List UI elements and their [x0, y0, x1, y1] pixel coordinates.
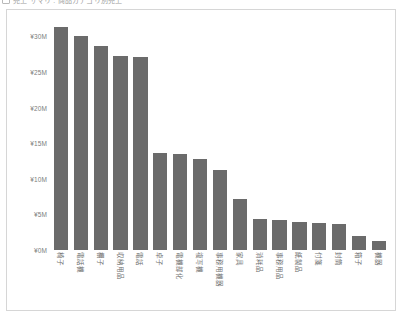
x-axis-tick-label: 機器	[374, 252, 384, 266]
x-label-slot: 収納用品	[111, 250, 131, 308]
x-axis-tick-label: 家具	[235, 252, 245, 266]
bar[interactable]	[193, 159, 207, 250]
x-label-slot: 封筒	[329, 250, 349, 308]
x-label-slot: 電話	[131, 250, 151, 308]
bar[interactable]	[352, 236, 366, 250]
x-label-slot: 箱子	[349, 250, 369, 308]
x-axis-tick-label: 紙製品	[294, 252, 304, 273]
x-axis-tick-label: 収納用品	[116, 252, 126, 280]
bar-slot	[91, 22, 111, 250]
x-label-slot: 棚子	[91, 250, 111, 308]
bar[interactable]	[173, 154, 187, 250]
bar[interactable]	[332, 224, 346, 250]
bar[interactable]	[94, 46, 108, 250]
x-label-slot: 家具	[230, 250, 250, 308]
x-label-slot: 事務用機器	[210, 250, 230, 308]
x-axis: 椅子電話機棚子収納用品電話卓子電機部化複写機事務用機器家具消耗品事務用品紙製品付…	[51, 250, 389, 308]
y-axis-tick: ¥0M	[34, 247, 47, 254]
x-axis-tick-label: 事務用品	[275, 252, 285, 280]
bar[interactable]	[312, 223, 326, 250]
bar-slot	[150, 22, 170, 250]
x-label-slot: 紙製品	[290, 250, 310, 308]
x-label-slot: 卓子	[150, 250, 170, 308]
x-label-slot: 電話機	[71, 250, 91, 308]
x-axis-tick-label: 箱子	[354, 252, 364, 266]
x-axis-tick-label: 消耗品	[255, 252, 265, 273]
bar-series	[51, 22, 389, 250]
x-axis-tick-label: 卓子	[155, 252, 165, 266]
bar-slot	[190, 22, 210, 250]
bar-slot	[250, 22, 270, 250]
bar-slot	[111, 22, 131, 250]
bar[interactable]	[213, 170, 227, 250]
y-axis-tick: ¥30M	[30, 33, 47, 40]
bar[interactable]	[133, 57, 147, 250]
x-axis-tick-label: 電機部化	[175, 252, 185, 280]
bar-slot	[71, 22, 91, 250]
y-axis-tick: ¥5M	[34, 211, 47, 218]
bar-slot	[170, 22, 190, 250]
y-axis-tick: ¥15M	[30, 140, 47, 147]
y-axis: ¥0M¥5M¥10M¥15M¥20M¥25M¥30M	[7, 22, 51, 250]
y-axis-tick: ¥10M	[30, 175, 47, 182]
bar[interactable]	[153, 153, 167, 250]
chart-card: ¥0M¥5M¥10M¥15M¥20M¥25M¥30M 椅子電話機棚子収納用品電話…	[6, 9, 396, 311]
x-axis-tick-label: 電話機	[76, 252, 86, 273]
x-axis-tick-label: 電話	[135, 252, 145, 266]
x-axis-tick-label: 付箋	[314, 252, 324, 266]
bar[interactable]	[233, 199, 247, 250]
bar-slot	[369, 22, 389, 250]
bar[interactable]	[253, 219, 267, 250]
panel-header-row: 売上 サマリ : 商品カテゴリ別売上	[2, 0, 122, 5]
bar-slot	[210, 22, 230, 250]
bar[interactable]	[113, 56, 127, 251]
bar[interactable]	[272, 220, 286, 250]
bar-slot	[230, 22, 250, 250]
y-axis-tick: ¥20M	[30, 104, 47, 111]
chart-screen: 売上 サマリ : 商品カテゴリ別売上 ¥0M¥5M¥10M¥15M¥20M¥25…	[0, 0, 403, 320]
bar-slot	[51, 22, 71, 250]
x-label-slot: 椅子	[51, 250, 71, 308]
x-label-slot: 消耗品	[250, 250, 270, 308]
x-axis-tick-label: 封筒	[334, 252, 344, 266]
x-label-slot: 複写機	[190, 250, 210, 308]
x-axis-tick-label: 椅子	[56, 252, 66, 266]
bar[interactable]	[54, 27, 68, 250]
bar-slot	[131, 22, 151, 250]
bar-slot	[270, 22, 290, 250]
x-label-slot: 電機部化	[170, 250, 190, 308]
bar[interactable]	[292, 222, 306, 251]
panel-header: 売上 サマリ : 商品カテゴリ別売上	[0, 0, 403, 9]
x-label-slot: 機器	[369, 250, 389, 308]
x-label-slot: 事務用品	[270, 250, 290, 308]
y-axis-tick: ¥25M	[30, 68, 47, 75]
x-label-slot: 付箋	[309, 250, 329, 308]
page-title: 売上 サマリ : 商品カテゴリ別売上	[13, 0, 122, 5]
bar-slot	[290, 22, 310, 250]
bar-slot	[309, 22, 329, 250]
bar[interactable]	[74, 36, 88, 250]
x-axis-tick-label: 複写機	[195, 252, 205, 273]
bar-slot	[349, 22, 369, 250]
bar-slot	[329, 22, 349, 250]
bar[interactable]	[372, 241, 386, 250]
x-axis-tick-label: 事務用機器	[215, 252, 225, 288]
panel-icon	[2, 0, 10, 4]
plot-area	[51, 22, 389, 250]
x-axis-tick-label: 棚子	[96, 252, 106, 266]
